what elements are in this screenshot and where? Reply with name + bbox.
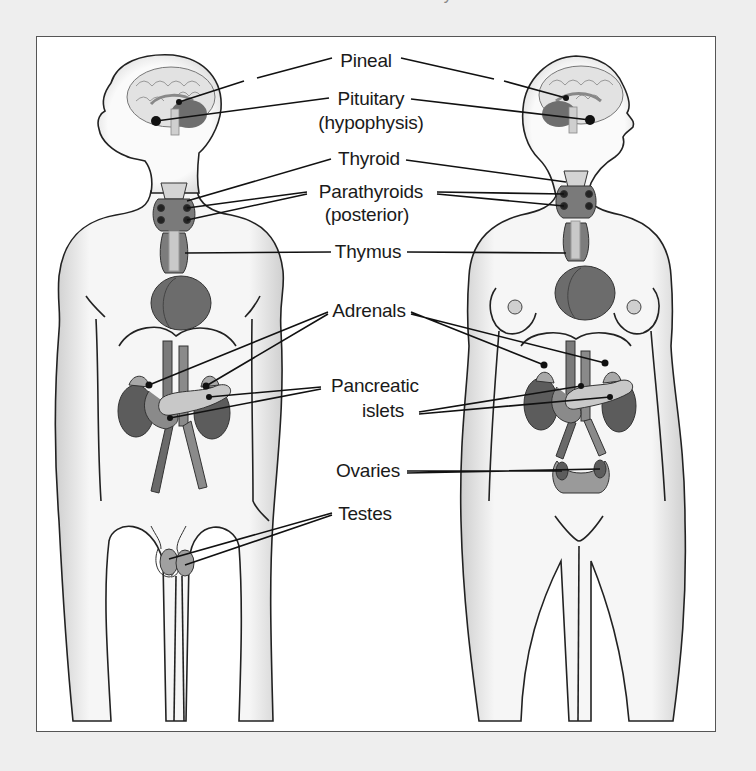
label-pancreatic: Pancreatic (331, 375, 419, 397)
diagram-frame: Pineal Pituitary (hypophysis) Thyroid Pa… (36, 36, 716, 732)
label-parathyroids: Parathyroids (319, 181, 423, 203)
label-testes: Testes (338, 503, 392, 525)
label-hypophysis: (hypophysis) (318, 112, 423, 134)
label-posterior: (posterior) (325, 204, 409, 226)
male-thymus (160, 231, 188, 273)
male-heart (151, 276, 211, 330)
clipped-caption: The endocrine system in men and women (0, 0, 756, 4)
label-ovaries: Ovaries (336, 460, 400, 482)
label-thyroid: Thyroid (338, 148, 400, 170)
female-heart (555, 266, 615, 320)
label-thymus: Thymus (335, 241, 401, 263)
label-adrenals: Adrenals (332, 300, 405, 322)
female-thymus (563, 221, 589, 261)
label-pineal: Pineal (340, 50, 392, 72)
label-pituitary: Pituitary (338, 88, 405, 110)
label-islets: islets (362, 400, 404, 422)
